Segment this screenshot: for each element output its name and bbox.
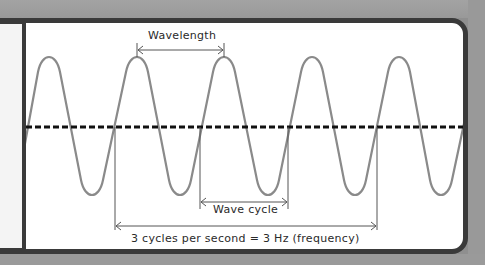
wave-diagram xyxy=(0,0,485,265)
wave-cycle-label: Wave cycle xyxy=(213,203,278,216)
frequency-label: 3 cycles per second = 3 Hz (frequency) xyxy=(131,232,360,245)
wavelength-marker xyxy=(137,43,224,57)
wavelength-label: Wavelength xyxy=(148,29,216,42)
wave-cycle-marker xyxy=(200,127,288,209)
